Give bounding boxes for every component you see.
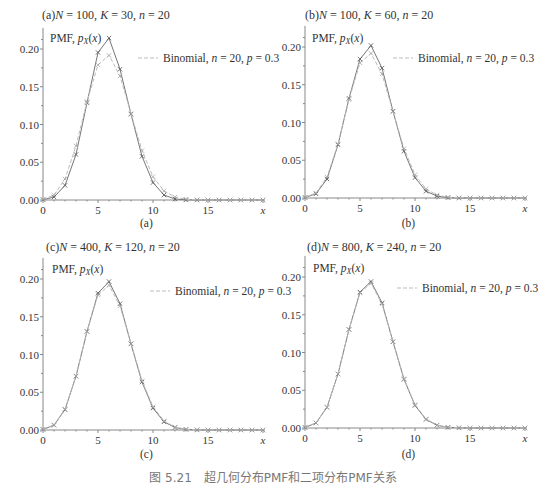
- x-marker-icon: [369, 43, 373, 47]
- x-marker-icon: [151, 180, 155, 184]
- x-tick-label: 15: [465, 202, 477, 214]
- figure: 0.000.050.100.150.20051015x(a)N = 100, K…: [0, 0, 546, 491]
- y-tick-label: 0.00: [282, 192, 302, 204]
- pmf-label: PMF, pX(x): [312, 32, 363, 46]
- pmf-series-line: [305, 282, 525, 429]
- y-tick-label: 0.10: [282, 347, 302, 359]
- y-tick-label: 0.15: [20, 81, 40, 93]
- y-tick-label: 0.00: [20, 424, 40, 436]
- y-tick-label: 0.10: [282, 117, 302, 129]
- pmf-label: PMF, pX(x): [50, 32, 101, 46]
- y-tick-label: 0.15: [282, 309, 302, 321]
- x-marker-icon: [424, 417, 428, 421]
- x-tick-label: 15: [203, 434, 215, 446]
- y-tick-label: 0.20: [20, 43, 40, 55]
- binomial-series-line: [305, 53, 525, 198]
- x-marker-icon: [151, 175, 155, 179]
- panel-title: (b)N = 100, K = 60, n = 20: [305, 8, 433, 22]
- figure-caption: 图 5.21 超几何分布PMF和二项分布PMF关系: [0, 468, 546, 485]
- x-marker-icon: [162, 193, 166, 197]
- y-tick-label: 0.05: [282, 384, 302, 396]
- x-marker-icon: [162, 189, 166, 193]
- y-tick-label: 0.05: [282, 154, 302, 166]
- binomial-legend-label: Binomial, n = 20, p = 0.3: [418, 52, 534, 65]
- x-tick-label: 10: [148, 434, 160, 446]
- panel-sublabel: (d): [402, 448, 416, 461]
- binomial-legend-label: Binomial, n = 20, p = 0.3: [175, 285, 291, 298]
- y-tick-label: 0.00: [282, 422, 302, 434]
- panel-sublabel: (a): [140, 217, 153, 230]
- y-tick-label: 0.15: [282, 79, 302, 91]
- x-tick-label: 0: [40, 434, 46, 446]
- x-tick-label: 10: [410, 432, 422, 444]
- binomial-series-line: [305, 283, 525, 428]
- x-tick-label: 5: [95, 204, 101, 216]
- pmf-label: PMF, pX(x): [313, 262, 364, 276]
- panel-title: (c)N = 400, K = 120, n = 20: [46, 240, 180, 254]
- panel-sublabel: (b): [402, 217, 416, 230]
- x-tick-label: 5: [357, 202, 363, 214]
- binomial-legend-label: Binomial, n = 20, p = 0.3: [163, 52, 279, 65]
- x-axis-label: x: [260, 434, 266, 446]
- x-marker-icon: [52, 423, 56, 427]
- x-tick-label: 5: [357, 432, 363, 444]
- x-tick-label: 10: [148, 204, 160, 216]
- y-tick-label: 0.15: [20, 311, 40, 323]
- x-marker-icon: [369, 51, 373, 55]
- binomial-series-line: [43, 55, 263, 200]
- x-marker-icon: [413, 403, 417, 407]
- y-tick-label: 0.10: [20, 119, 40, 131]
- panel-title: (d)N = 800, K = 240, n = 20: [307, 240, 441, 254]
- x-tick-label: 0: [40, 204, 46, 216]
- panel-sublabel: (c): [140, 448, 153, 461]
- y-tick-label: 0.05: [20, 156, 40, 168]
- x-tick-label: 10: [410, 202, 422, 214]
- pmf-label: PMF, pX(x): [52, 263, 103, 277]
- chart-panel-a: 0.000.050.100.150.20051015x(a)N = 100, K…: [20, 8, 280, 230]
- x-tick-label: 15: [465, 432, 477, 444]
- chart-panel-b: 0.000.050.100.150.20051015x(b)N = 100, K…: [282, 8, 535, 230]
- y-tick-label: 0.10: [20, 349, 40, 361]
- x-marker-icon: [314, 421, 318, 425]
- x-marker-icon: [162, 419, 166, 423]
- binomial-legend-label: Binomial, n = 20, p = 0.3: [422, 282, 538, 295]
- x-marker-icon: [107, 53, 111, 57]
- y-tick-label: 0.05: [20, 386, 40, 398]
- y-tick-label: 0.20: [282, 271, 302, 283]
- chart-panel-d: 0.000.050.100.150.20051015x(d)N = 800, K…: [282, 240, 539, 461]
- x-marker-icon: [107, 279, 111, 283]
- chart-panel-c: 0.000.050.100.150.20051015x(c)N = 400, K…: [20, 240, 292, 461]
- x-tick-label: 15: [203, 204, 215, 216]
- y-tick-label: 0.20: [20, 273, 40, 285]
- x-axis-label: x: [260, 204, 266, 216]
- x-marker-icon: [63, 183, 67, 187]
- x-tick-label: 0: [302, 202, 308, 214]
- x-marker-icon: [358, 291, 362, 295]
- y-tick-label: 0.20: [282, 41, 302, 53]
- x-marker-icon: [96, 63, 100, 67]
- y-tick-label: 0.00: [20, 194, 40, 206]
- x-tick-label: 5: [95, 434, 101, 446]
- x-axis-label: x: [522, 202, 528, 214]
- panel-title: (a)N = 100, K = 30, n = 20: [42, 8, 170, 22]
- x-axis-label: x: [522, 432, 528, 444]
- x-tick-label: 0: [302, 432, 308, 444]
